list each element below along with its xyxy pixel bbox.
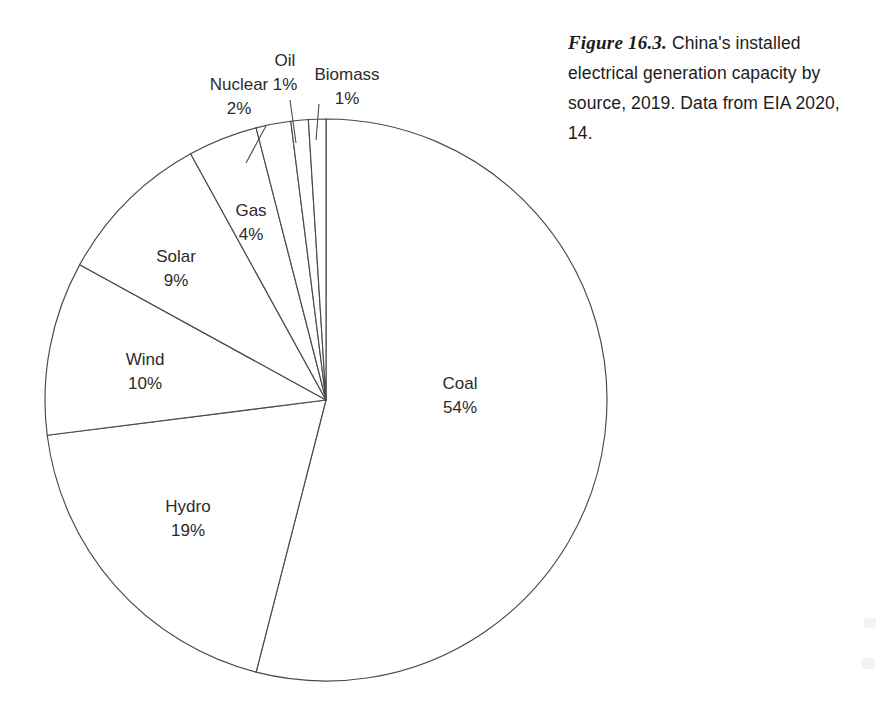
- slice-value-coal: 54%: [443, 398, 477, 417]
- slice-label-hydro: Hydro: [165, 497, 210, 516]
- scan-artifact-upper: [864, 618, 876, 628]
- slice-label-biomass: Biomass: [314, 65, 379, 84]
- slice-value-wind: 10%: [128, 374, 162, 393]
- pie-chart: Coal54%Hydro19%Wind10%Solar9%Gas4%Nuclea…: [0, 0, 660, 725]
- slice-value-nuclear: 2%: [227, 99, 252, 118]
- pie-chart-svg: Coal54%Hydro19%Wind10%Solar9%Gas4%Nuclea…: [0, 0, 660, 725]
- slice-value-solar: 9%: [164, 271, 189, 290]
- slice-label-coal: Coal: [443, 374, 478, 393]
- slice-label-nuclear: Nuclear: [210, 75, 269, 94]
- slice-value-gas: 4%: [239, 225, 264, 244]
- slice-value-oil: 1%: [273, 75, 298, 94]
- slice-value-biomass: 1%: [335, 89, 360, 108]
- figure-page: Coal54%Hydro19%Wind10%Solar9%Gas4%Nuclea…: [0, 0, 889, 725]
- pie-slices-group: [45, 119, 607, 681]
- slice-label-solar: Solar: [156, 247, 196, 266]
- figure-caption: Figure 16.3. China's installed electrica…: [568, 28, 868, 148]
- slice-label-wind: Wind: [126, 350, 165, 369]
- slice-label-gas: Gas: [235, 201, 266, 220]
- figure-number: Figure 16.3.: [568, 32, 667, 53]
- scan-artifact-lower: [862, 658, 875, 669]
- slice-label-oil: Oil: [275, 51, 296, 70]
- slice-value-hydro: 19%: [171, 521, 205, 540]
